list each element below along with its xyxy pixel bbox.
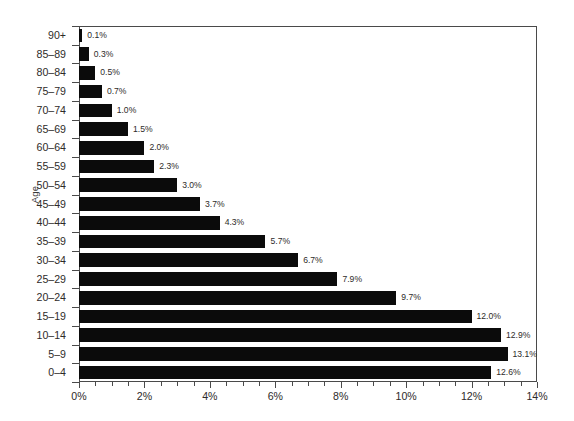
x-axis-minor-tick xyxy=(259,382,260,386)
bar-value-label: 0.7% xyxy=(107,84,127,98)
bar-value-label: 7.9% xyxy=(342,272,362,286)
y-axis-tick-mark xyxy=(72,363,79,364)
y-axis-tick-label: 15–19 xyxy=(37,307,66,326)
y-axis-category-labels: 90+85–8980–8475–7970–7465–6960–6455–5950… xyxy=(0,26,79,382)
bar xyxy=(79,216,220,230)
y-axis-tick-mark xyxy=(72,195,79,196)
x-axis-tick-label: 8% xyxy=(311,390,371,402)
y-axis-tick-mark xyxy=(72,345,79,346)
bar-value-label: 12.9% xyxy=(506,328,530,342)
y-axis-tick-label: 65–69 xyxy=(37,120,66,139)
bar xyxy=(79,66,95,80)
bar xyxy=(79,104,112,118)
bar-row: 0.5% xyxy=(79,63,537,82)
x-axis-minor-tick xyxy=(390,382,391,386)
bar xyxy=(79,85,102,99)
bar-row: 0.7% xyxy=(79,82,537,101)
bar-row: 0.3% xyxy=(79,45,537,64)
x-axis-minor-tick xyxy=(194,382,195,386)
y-axis-tick-label: 50–54 xyxy=(37,176,66,195)
bar xyxy=(79,328,501,342)
x-axis-major-tick xyxy=(341,382,342,388)
y-axis-tick-mark xyxy=(72,101,79,102)
x-axis-major-tick xyxy=(537,382,538,388)
bar-value-label: 2.3% xyxy=(159,159,179,173)
y-axis-tick-mark xyxy=(72,82,79,83)
bar-value-label: 6.7% xyxy=(303,253,323,267)
bar-row: 12.9% xyxy=(79,326,537,345)
bar-row: 7.9% xyxy=(79,270,537,289)
y-axis-tick-mark xyxy=(72,307,79,308)
x-axis-tick-label: 6% xyxy=(245,390,305,402)
bar xyxy=(79,253,298,267)
y-axis-tick-mark xyxy=(72,138,79,139)
x-axis-minor-tick xyxy=(128,382,129,386)
bar-row: 3.0% xyxy=(79,176,537,195)
y-axis-tick-label: 90+ xyxy=(48,26,66,45)
y-axis-tick-mark xyxy=(72,251,79,252)
bar-series: 0.1%0.3%0.5%0.7%1.0%1.5%2.0%2.3%3.0%3.7%… xyxy=(79,26,537,382)
x-axis-tick-label: 14% xyxy=(507,390,567,402)
x-axis-minor-tick xyxy=(177,382,178,386)
x-axis-major-tick xyxy=(144,382,145,388)
x-axis-major-tick xyxy=(472,382,473,388)
y-axis-tick-label: 40–44 xyxy=(37,213,66,232)
bar-value-label: 3.0% xyxy=(182,178,202,192)
bar-value-label: 4.3% xyxy=(225,215,245,229)
y-axis-tick-mark xyxy=(72,270,79,271)
bar-value-label: 9.7% xyxy=(401,290,421,304)
y-axis-tick-mark xyxy=(72,213,79,214)
y-axis-tick-mark xyxy=(72,45,79,46)
bar-value-label: 3.7% xyxy=(205,197,225,211)
y-axis-tick-label: 85–89 xyxy=(37,45,66,64)
bar xyxy=(79,272,337,286)
bar xyxy=(79,366,491,380)
bar-row: 4.3% xyxy=(79,213,537,232)
bar xyxy=(79,122,128,136)
bar-row: 2.3% xyxy=(79,157,537,176)
y-axis-tick-mark xyxy=(72,63,79,64)
x-axis-minor-tick xyxy=(324,382,325,386)
y-axis-tick-mark xyxy=(72,26,79,27)
x-axis-minor-tick xyxy=(243,382,244,386)
bar xyxy=(79,291,396,305)
y-axis-tick-label: 60–64 xyxy=(37,138,66,157)
bar xyxy=(79,178,177,192)
x-axis-minor-tick xyxy=(161,382,162,386)
x-axis-minor-tick xyxy=(226,382,227,386)
x-axis-major-tick xyxy=(210,382,211,388)
bar-row: 2.0% xyxy=(79,138,537,157)
x-axis-major-tick xyxy=(406,382,407,388)
bar-row: 1.0% xyxy=(79,101,537,120)
bar xyxy=(79,310,472,324)
bar-value-label: 13.1% xyxy=(513,347,537,361)
y-axis-tick-label: 75–79 xyxy=(37,82,66,101)
bar-value-label: 0.1% xyxy=(87,28,107,42)
x-axis-tick-label: 10% xyxy=(376,390,436,402)
y-axis-tick-label: 45–49 xyxy=(37,195,66,214)
bar-row: 3.7% xyxy=(79,195,537,214)
y-axis-tick-mark xyxy=(72,288,79,289)
x-axis-major-tick xyxy=(275,382,276,388)
x-axis-tick-label: 0% xyxy=(49,390,109,402)
bar-row: 12.0% xyxy=(79,307,537,326)
x-axis-minor-tick xyxy=(373,382,374,386)
x-axis-tick-label: 2% xyxy=(114,390,174,402)
y-axis-tick-label: 80–84 xyxy=(37,63,66,82)
x-axis-tick-label: 4% xyxy=(180,390,240,402)
y-axis-tick-label: 25–29 xyxy=(37,270,66,289)
bar-value-label: 12.6% xyxy=(496,365,520,379)
x-axis-minor-tick xyxy=(455,382,456,386)
y-axis-tick-label: 30–34 xyxy=(37,251,66,270)
x-axis-minor-tick xyxy=(308,382,309,386)
bar xyxy=(79,141,144,155)
bar-value-label: 5.7% xyxy=(270,234,290,248)
y-axis-tick-label: 20–24 xyxy=(37,288,66,307)
population-pyramid-bar-chart: Age 90+85–8980–8475–7970–7465–6960–6455–… xyxy=(0,0,574,421)
y-axis-tick-mark xyxy=(72,326,79,327)
y-axis-tick-mark xyxy=(72,382,79,383)
bar-value-label: 1.0% xyxy=(117,103,137,117)
x-axis-major-tick xyxy=(79,382,80,388)
y-axis-tick-label: 35–39 xyxy=(37,232,66,251)
bar xyxy=(79,47,89,61)
